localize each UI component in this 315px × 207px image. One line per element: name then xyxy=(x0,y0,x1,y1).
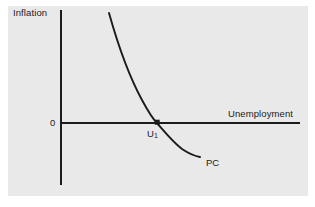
origin-tick-label: 0 xyxy=(50,117,55,128)
phillips-curve-figure: Inflation Unemployment 0 U1 PC xyxy=(0,0,315,207)
equilibrium-point-label-base: U xyxy=(147,128,154,139)
chart-panel xyxy=(8,6,308,196)
curve-label: PC xyxy=(206,157,219,168)
x-axis-title: Unemployment xyxy=(228,108,293,119)
equilibrium-point-label-subscript: 1 xyxy=(154,132,158,139)
y-axis-title: Inflation xyxy=(13,7,47,18)
equilibrium-point-label: U1 xyxy=(147,128,158,140)
